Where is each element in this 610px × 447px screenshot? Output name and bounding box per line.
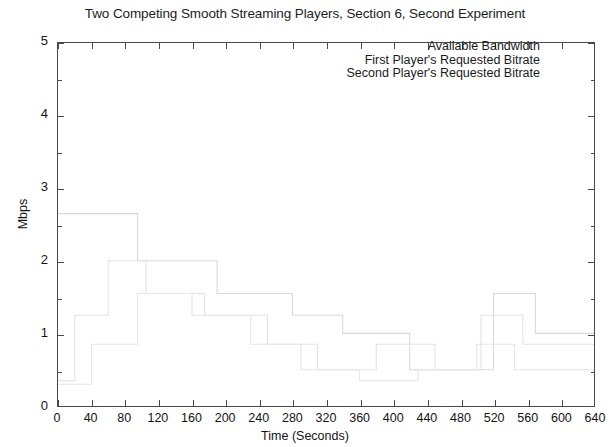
x-axis-tick xyxy=(226,400,227,406)
x-axis-tick xyxy=(495,400,496,406)
legend-entry-available-bandwidth: Available Bandwidth xyxy=(300,40,540,54)
y-axis-minor-tick xyxy=(58,372,62,373)
series-line-0 xyxy=(58,214,594,370)
y-axis-tick-label: 5 xyxy=(26,33,48,48)
x-axis-tick xyxy=(428,400,429,406)
x-axis-tick xyxy=(193,43,194,49)
x-axis-tick xyxy=(92,43,93,49)
legend-entry-first-player-bitrate: First Player's Requested Bitrate xyxy=(300,54,540,68)
y-axis-minor-tick xyxy=(58,153,62,154)
y-axis-tick xyxy=(588,43,594,44)
y-axis-minor-tick xyxy=(591,372,595,373)
series-line-1 xyxy=(58,261,594,381)
y-axis-tick-label: 0 xyxy=(26,398,48,413)
y-axis-minor-tick xyxy=(591,299,595,300)
y-axis-tick-label: 2 xyxy=(26,252,48,267)
legend-entry-second-player-bitrate: Second Player's Requested Bitrate xyxy=(300,67,540,81)
x-axis-tick xyxy=(293,400,294,406)
x-axis-tick xyxy=(327,400,328,406)
x-axis-tick xyxy=(193,400,194,406)
plot-area xyxy=(57,42,595,407)
x-axis-tick xyxy=(361,400,362,406)
x-axis-tick xyxy=(226,43,227,49)
y-axis-minor-tick xyxy=(58,299,62,300)
y-axis-tick xyxy=(58,262,64,263)
y-axis-minor-tick xyxy=(58,226,62,227)
x-axis-tick xyxy=(159,400,160,406)
y-axis-tick xyxy=(58,43,64,44)
y-axis-minor-tick xyxy=(591,80,595,81)
chart-title: Two Competing Smooth Streaming Players, … xyxy=(0,6,610,21)
x-axis-tick xyxy=(159,43,160,49)
y-axis-minor-tick xyxy=(591,226,595,227)
x-axis-tick xyxy=(394,400,395,406)
x-axis-tick xyxy=(125,400,126,406)
x-axis-title: Time (Seconds) xyxy=(0,429,610,443)
x-axis-tick xyxy=(260,400,261,406)
chart-figure: Two Competing Smooth Streaming Players, … xyxy=(0,0,610,447)
series-line-2 xyxy=(58,293,594,384)
x-axis-tick xyxy=(92,400,93,406)
y-axis-minor-tick xyxy=(591,153,595,154)
x-axis-tick xyxy=(462,400,463,406)
x-axis-tick xyxy=(562,400,563,406)
x-axis-tick xyxy=(125,43,126,49)
y-axis-tick xyxy=(588,189,594,190)
y-axis-tick xyxy=(588,262,594,263)
x-axis-tick xyxy=(58,400,59,406)
x-axis-tick xyxy=(293,43,294,49)
plot-data-lines xyxy=(58,43,594,406)
y-axis-tick xyxy=(58,116,64,117)
y-axis-minor-tick xyxy=(58,80,62,81)
x-axis-tick xyxy=(260,43,261,49)
y-axis-tick-label: 1 xyxy=(26,325,48,340)
y-axis-tick-label: 3 xyxy=(26,179,48,194)
x-axis-tick xyxy=(562,43,563,49)
y-axis-tick xyxy=(58,189,64,190)
y-axis-tick xyxy=(58,335,64,336)
y-axis-tick-label: 4 xyxy=(26,106,48,121)
y-axis-tick xyxy=(588,335,594,336)
x-axis-tick-label: 640 xyxy=(575,411,610,425)
x-axis-tick xyxy=(529,400,530,406)
y-axis-tick xyxy=(588,116,594,117)
chart-legend: Available Bandwidth First Player's Reque… xyxy=(300,40,540,81)
